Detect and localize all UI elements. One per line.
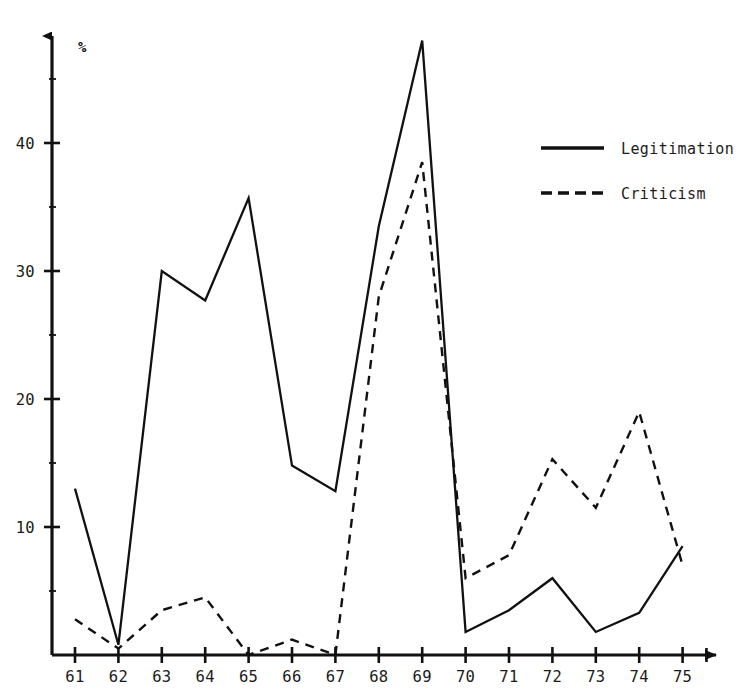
y-axis-tick-labels: 10203040 (16, 135, 35, 537)
y-tick-label: 30 (16, 263, 35, 281)
legend-label: Criticism (621, 185, 706, 203)
x-axis-tick-labels: 616263646566676869707172737475 (65, 668, 692, 686)
y-tick-label: 40 (16, 135, 35, 153)
x-tick-label: 62 (109, 668, 128, 686)
chart-canvas: 10203040 % 61626364656667686970717273747… (0, 0, 741, 700)
x-tick-label: 72 (543, 668, 562, 686)
x-tick-label: 65 (239, 668, 258, 686)
x-tick-label: 63 (152, 668, 171, 686)
x-tick-label: 67 (326, 668, 345, 686)
data-series-group (75, 41, 683, 655)
y-tick-label: 20 (16, 391, 35, 409)
x-tick-label: 70 (456, 668, 475, 686)
x-tick-label: 73 (586, 668, 605, 686)
x-tick-label: 64 (196, 668, 215, 686)
y-axis-unit-label: % (78, 39, 87, 55)
x-tick-label: 75 (673, 668, 692, 686)
x-tick-label: 61 (65, 668, 84, 686)
series-line-legitimation (75, 41, 683, 645)
x-axis: 616263646566676869707172737475 (52, 647, 716, 686)
y-tick-label: 10 (16, 519, 35, 537)
x-tick-label: 69 (413, 668, 432, 686)
legend-item-criticism[interactable]: Criticism (541, 185, 706, 203)
line-chart-figure: 10203040 % 61626364656667686970717273747… (0, 0, 741, 700)
legend-label: Legitimation (621, 140, 734, 158)
x-tick-label: 66 (282, 668, 301, 686)
x-tick-label: 68 (369, 668, 388, 686)
chart-legend: LegitimationCriticism (541, 140, 734, 203)
y-axis: 10203040 % (16, 36, 87, 655)
legend-item-legitimation[interactable]: Legitimation (541, 140, 734, 158)
x-tick-label: 71 (499, 668, 518, 686)
x-tick-label: 74 (630, 668, 649, 686)
series-line-criticism (75, 162, 683, 655)
